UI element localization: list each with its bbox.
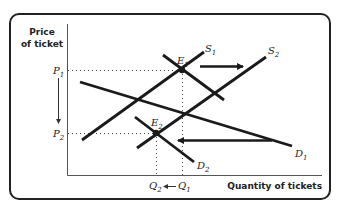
label-s2: S2 <box>268 45 280 59</box>
label-q2: Q2 <box>149 180 162 194</box>
y-axis-title-line2: of ticket <box>21 39 64 49</box>
y-axis-title-line1: Price <box>29 27 55 37</box>
label-d1: D1 <box>294 148 308 162</box>
demand-curve-d2-upper <box>163 55 224 100</box>
x-axis-title: Quantity of tickets <box>227 181 322 191</box>
demand-curve-d1 <box>80 82 292 146</box>
supply-demand-diagram: Price of ticket Quantity of tickets S1 S… <box>0 0 341 208</box>
label-q1: Q1 <box>178 180 191 194</box>
label-p1: P1 <box>52 65 64 79</box>
label-d2: D2 <box>196 160 210 174</box>
label-p2: P2 <box>52 128 65 142</box>
label-s1: S1 <box>205 43 216 57</box>
